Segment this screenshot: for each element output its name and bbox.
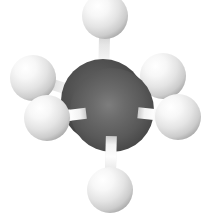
molecule-viewer: Eclipsed ethane ball-and-stick model — [0, 0, 211, 221]
atom-hydrogen-lower-right — [155, 94, 201, 140]
atom-hydrogen-lower-left — [24, 95, 70, 141]
atom-hydrogen-top — [82, 0, 128, 39]
atom-hydrogen-upper-left — [10, 55, 56, 101]
molecule-canvas — [0, 0, 211, 221]
atom-hydrogen-bottom — [87, 167, 133, 213]
